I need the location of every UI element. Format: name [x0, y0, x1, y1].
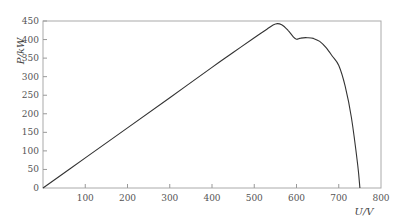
x-axis-label: U/V	[354, 206, 375, 217]
x-tick-label: 100	[77, 193, 94, 203]
plot-border	[43, 21, 381, 188]
y-axis-label: P/kW	[15, 37, 26, 65]
y-tick-label: 200	[22, 109, 39, 119]
y-tick-label: 50	[28, 164, 40, 174]
x-axis-ticks: 100200300400500600700800	[77, 184, 390, 203]
x-tick-label: 500	[246, 193, 263, 203]
y-tick-label: 450	[22, 16, 39, 26]
x-tick-label: 700	[330, 193, 347, 203]
power-curve	[43, 24, 360, 188]
y-tick-label: 100	[22, 146, 39, 156]
x-tick-label: 400	[203, 193, 220, 203]
x-tick-label: 200	[119, 193, 136, 203]
pv-power-voltage-chart: 050100150200250300350400450 100200300400…	[0, 0, 405, 222]
y-tick-label: 250	[22, 90, 39, 100]
y-tick-label: 0	[33, 183, 39, 193]
x-tick-label: 800	[372, 193, 389, 203]
y-tick-label: 150	[22, 127, 39, 137]
x-tick-label: 300	[161, 193, 178, 203]
x-tick-label: 600	[288, 193, 305, 203]
y-tick-label: 300	[22, 72, 39, 82]
plot-frame	[43, 21, 381, 188]
